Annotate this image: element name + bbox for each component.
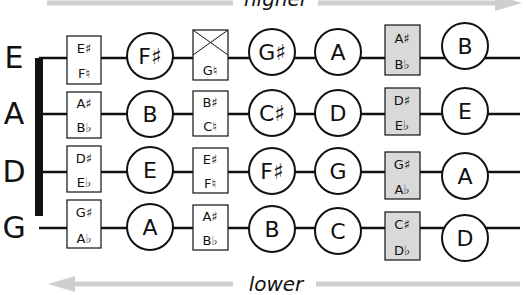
svg-text:G♮: G♮ [203,63,218,78]
svg-text:E♭: E♭ [395,118,409,133]
lower-arrow: lower [48,272,520,295]
note-circle: A [442,153,488,199]
svg-text:B: B [264,217,279,242]
box-g-2: A♯ B♭ [193,205,228,250]
svg-text:B: B [457,34,472,59]
string-lines [39,58,520,228]
box-e-1: E♯ F♮ [67,36,101,84]
string-e: E E♯ F♮ F♯ G♮ G♯ A A♯ B♭ [5,23,488,84]
svg-text:E♯: E♯ [77,41,92,56]
svg-text:E♭: E♭ [77,175,91,190]
svg-text:C: C [330,219,345,244]
note-circle: B [249,206,295,252]
svg-text:G♯: G♯ [394,157,410,172]
svg-text:A♯: A♯ [394,31,409,46]
svg-text:A♯: A♯ [202,209,217,224]
box-g-3: C♯ D♭ [385,212,420,260]
box-a-1: A♯ B♭ [67,92,101,138]
string-label: G [2,210,25,245]
svg-text:A♭: A♭ [76,231,91,246]
fretboard-diagram: higher lower E E♯ F♮ F♯ G♮ [0,0,526,295]
note-circle: G [315,148,361,194]
svg-text:C♯: C♯ [394,217,409,232]
svg-text:B♯: B♯ [202,95,217,110]
svg-text:C♮: C♮ [203,119,217,134]
box-d-2: E♯ F♮ [193,148,228,193]
note-circle: E [442,88,488,134]
string-g: G G♯ A♭ A A♯ B♭ B C C♯ D♭ [2,200,488,261]
note-circle: C♯ [249,90,295,136]
note-circle: F♯ [127,33,173,79]
higher-label: higher [244,0,310,11]
box-e-2-crossed: G♮ [193,30,228,80]
svg-text:A♭: A♭ [394,182,409,197]
note-circle: C [315,208,361,254]
box-e-3: A♯ B♭ [385,25,420,75]
box-d-3: G♯ A♭ [385,152,420,199]
note-circle: B [442,23,488,69]
box-a-2: B♯ C♮ [193,91,228,136]
svg-text:E: E [458,99,472,124]
lower-label: lower [249,272,305,295]
svg-text:A: A [457,164,472,189]
higher-arrow: higher [47,0,522,11]
svg-text:A♯: A♯ [76,96,91,111]
note-circle: A [315,29,361,75]
svg-text:G♯: G♯ [258,40,286,65]
svg-text:E♯: E♯ [203,152,218,167]
note-circle: G♯ [249,29,295,75]
svg-text:D: D [330,101,347,126]
svg-text:D: D [457,226,474,251]
box-g-1: G♯ A♭ [67,200,101,248]
nut [35,58,43,216]
svg-text:B♭: B♭ [394,57,409,72]
note-circle: D [442,215,488,261]
box-d-1: D♯ E♭ [67,146,101,192]
note-circle: A [127,204,173,250]
svg-text:F♯: F♯ [260,159,283,184]
svg-text:F♮: F♮ [78,66,90,81]
svg-text:F♮: F♮ [204,176,216,191]
svg-text:D♯: D♯ [76,151,92,166]
string-label: D [2,154,25,189]
svg-text:G♯: G♯ [76,205,92,220]
note-circle: E [127,147,173,193]
string-label: A [4,96,25,131]
box-a-3: D♯ E♭ [385,88,420,135]
svg-text:C♯: C♯ [259,101,285,126]
svg-text:D♯: D♯ [394,93,410,108]
svg-text:G: G [329,159,346,184]
string-label: E [5,40,24,75]
svg-text:B: B [142,102,157,127]
svg-text:E: E [143,158,157,183]
svg-text:F♯: F♯ [138,44,161,69]
svg-text:A: A [142,215,157,240]
svg-text:A: A [330,40,345,65]
note-circle: D [315,90,361,136]
svg-text:B♭: B♭ [76,120,91,135]
svg-text:D♭: D♭ [394,243,410,258]
svg-text:B♭: B♭ [202,233,217,248]
note-circle: F♯ [249,148,295,194]
note-circle: B [127,91,173,137]
